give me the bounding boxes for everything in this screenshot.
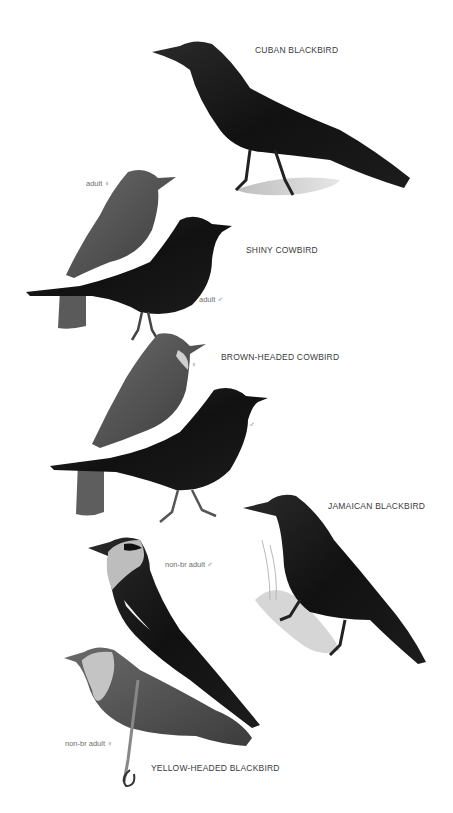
species-label-yellow-headed-blackbird: YELLOW-HEADED BLACKBIRD — [151, 763, 280, 773]
sex-label-yellow-headed-blackbird-male: non-br adult ♂ — [165, 560, 213, 569]
species-label-jamaican-blackbird: JAMAICAN BLACKBIRD — [328, 501, 425, 511]
sex-label-brown-headed-cowbird-female: ♀ — [191, 360, 197, 369]
species-label-brown-headed-cowbird: BROWN-HEADED COWBIRD — [221, 352, 339, 362]
jamaican-blackbird-illustration — [243, 495, 426, 664]
sex-label-yellow-headed-blackbird-female: non-br adult ♀ — [65, 739, 113, 748]
species-label-cuban-blackbird: CUBAN BLACKBIRD — [255, 45, 338, 55]
sex-label-shiny-cowbird-male: adult ♂ — [199, 295, 223, 304]
cuban-blackbird-illustration — [152, 41, 410, 195]
bird-plate: CUBAN BLACKBIRD adult ♀ SHINY COWBIRD ad… — [0, 0, 453, 813]
bird-illustrations — [0, 0, 453, 813]
species-label-shiny-cowbird: SHINY COWBIRD — [246, 245, 318, 255]
sex-label-brown-headed-cowbird-male: ♂ — [249, 420, 255, 429]
sex-label-shiny-cowbird-female: adult ♀ — [86, 179, 110, 188]
